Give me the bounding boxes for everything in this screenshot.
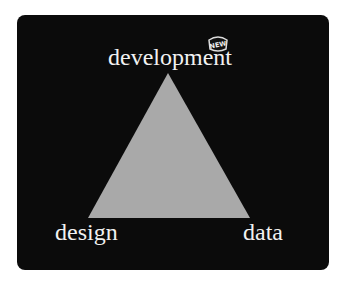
label-data: data — [243, 220, 283, 244]
new-badge-icon: NEW — [206, 34, 230, 54]
diagram-panel: development design data NEW — [17, 15, 329, 270]
label-design: design — [55, 220, 118, 244]
